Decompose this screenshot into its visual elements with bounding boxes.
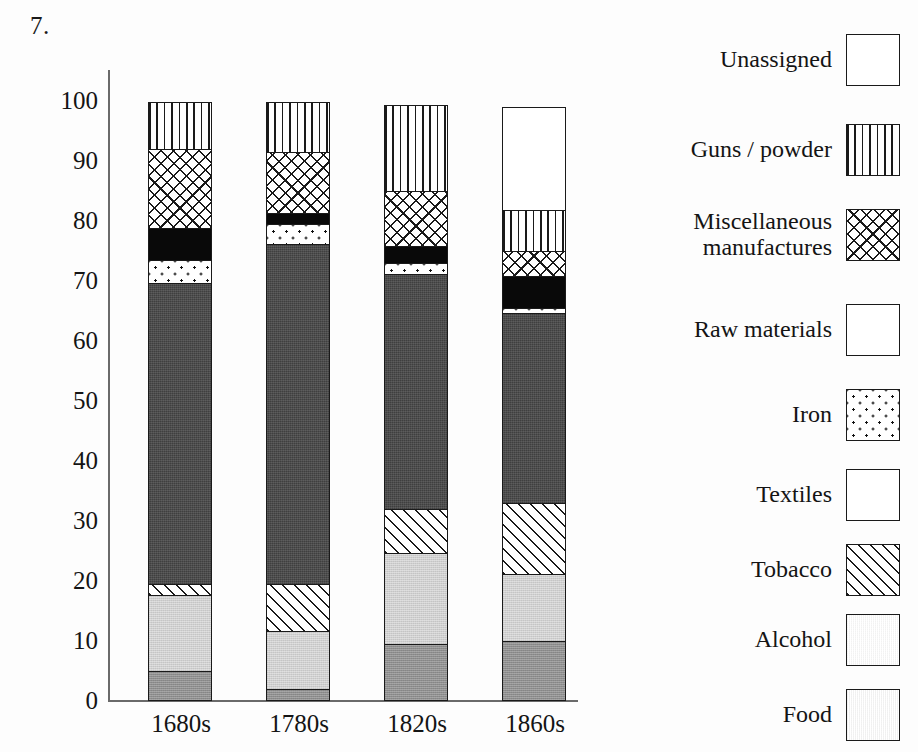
legend-item-miscellaneous-manufactures[interactable]: Miscellaneous manufactures: [600, 209, 900, 261]
bar-segment-1780s-iron[interactable]: [266, 224, 330, 245]
legend-swatch-food: [846, 689, 900, 741]
bar-segment-1820s-miscellaneous-manufactures[interactable]: [384, 191, 448, 248]
bar-segment-1680s-raw-materials[interactable]: [148, 228, 212, 261]
legend-swatch-textiles: [846, 469, 900, 521]
bar-segment-1820s-food[interactable]: [384, 644, 448, 701]
bar-stack-1860s: [502, 107, 566, 700]
legend-item-alcohol[interactable]: Alcohol: [600, 614, 900, 666]
legend: UnassignedGuns / powderMiscellaneous man…: [600, 60, 900, 700]
bar-segment-1820s-raw-materials[interactable]: [384, 246, 448, 264]
legend-swatch-tobacco: [846, 544, 900, 596]
legend-swatch-iron: [846, 389, 900, 441]
legend-label-tobacco: Tobacco: [751, 557, 832, 583]
bar-segment-1860s-textiles[interactable]: [502, 313, 566, 505]
x-axis-tick-1860s: 1860s: [480, 710, 590, 738]
bar-segment-1780s-tobacco[interactable]: [266, 584, 330, 632]
bar-stack-1780s: [266, 102, 330, 700]
bar-stack-1680s: [148, 102, 212, 700]
bar-segment-1820s-textiles[interactable]: [384, 274, 448, 511]
y-axis-tick-90: 90: [36, 148, 98, 173]
legend-label-iron: Iron: [792, 402, 832, 428]
bar-segment-1860s-raw-materials[interactable]: [502, 276, 566, 309]
bar-column-1780s[interactable]: 1780s: [244, 62, 354, 702]
bar-segment-1820s-guns-powder[interactable]: [384, 105, 448, 192]
plot-area: 1009080706050403020100 1680s1780s1820s18…: [20, 62, 580, 752]
legend-label-miscellaneous-manufactures: Miscellaneous manufactures: [693, 209, 832, 261]
legend-swatch-unassigned: [846, 34, 900, 86]
bar-column-1680s[interactable]: 1680s: [126, 62, 236, 702]
bar-segment-1780s-textiles[interactable]: [266, 244, 330, 586]
y-axis-tick-80: 80: [36, 208, 98, 233]
legend-label-food: Food: [783, 702, 832, 728]
bar-segment-1820s-alcohol[interactable]: [384, 553, 448, 646]
x-axis-tick-1780s: 1780s: [244, 710, 354, 738]
y-axis-tick-0: 0: [36, 688, 98, 713]
bar-segment-1680s-food[interactable]: [148, 671, 212, 701]
legend-label-alcohol: Alcohol: [755, 627, 832, 653]
legend-swatch-guns-powder: [846, 124, 900, 176]
bar-segment-1820s-tobacco[interactable]: [384, 509, 448, 554]
legend-item-guns-powder[interactable]: Guns / powder: [600, 124, 900, 176]
y-axis-tick-10: 10: [36, 628, 98, 653]
y-axis-tick-30: 30: [36, 508, 98, 533]
bar-stack-1820s: [384, 105, 448, 700]
legend-item-iron[interactable]: Iron: [600, 389, 900, 441]
legend-item-textiles[interactable]: Textiles: [600, 469, 900, 521]
legend-label-guns-powder: Guns / powder: [691, 137, 832, 163]
y-axis-tick-100: 100: [36, 88, 98, 113]
bar-segment-1680s-alcohol[interactable]: [148, 595, 212, 673]
legend-item-tobacco[interactable]: Tobacco: [600, 544, 900, 596]
legend-item-food[interactable]: Food: [600, 689, 900, 741]
bar-segment-1860s-food[interactable]: [502, 641, 566, 701]
bar-column-1820s[interactable]: 1820s: [362, 62, 472, 702]
legend-item-raw-materials[interactable]: Raw materials: [600, 304, 900, 356]
bar-segment-1860s-guns-powder[interactable]: [502, 210, 566, 252]
bar-segment-1680s-miscellaneous-manufactures[interactable]: [148, 149, 212, 230]
bar-segment-1780s-food[interactable]: [266, 689, 330, 701]
y-axis-tick-20: 20: [36, 568, 98, 593]
bar-segment-1780s-miscellaneous-manufactures[interactable]: [266, 152, 330, 215]
x-axis-tick-1820s: 1820s: [362, 710, 472, 738]
figure-number: 7.: [30, 12, 50, 40]
y-axis-tick-50: 50: [36, 388, 98, 413]
legend-swatch-alcohol: [846, 614, 900, 666]
bar-segment-1860s-alcohol[interactable]: [502, 574, 566, 643]
bar-segment-1860s-miscellaneous-manufactures[interactable]: [502, 251, 566, 278]
bar-segment-1780s-alcohol[interactable]: [266, 631, 330, 691]
y-axis-tick-60: 60: [36, 328, 98, 353]
figure-page: 7. 1009080706050403020100 1680s1780s1820…: [0, 0, 918, 752]
bar-segment-1860s-tobacco[interactable]: [502, 503, 566, 575]
legend-item-unassigned[interactable]: Unassigned: [600, 34, 900, 86]
bar-segment-1780s-guns-powder[interactable]: [266, 102, 330, 153]
legend-swatch-raw-materials: [846, 304, 900, 356]
bar-column-1860s[interactable]: 1860s: [480, 62, 590, 702]
legend-label-raw-materials: Raw materials: [694, 317, 832, 343]
y-axis-tick-40: 40: [36, 448, 98, 473]
bar-segment-1680s-guns-powder[interactable]: [148, 102, 212, 150]
legend-swatch-miscellaneous-manufactures: [846, 209, 900, 261]
bar-segment-1860s-unassigned[interactable]: [502, 107, 566, 212]
bar-segment-1680s-textiles[interactable]: [148, 283, 212, 586]
legend-label-textiles: Textiles: [756, 482, 832, 508]
legend-label-unassigned: Unassigned: [720, 47, 832, 73]
bar-segment-1680s-iron[interactable]: [148, 260, 212, 284]
stacked-bars-group: 1680s1780s1820s1860s: [108, 62, 580, 702]
y-axis-tick-labels: 1009080706050403020100: [20, 62, 98, 702]
y-axis-tick-70: 70: [36, 268, 98, 293]
x-axis-tick-1680s: 1680s: [126, 710, 236, 738]
